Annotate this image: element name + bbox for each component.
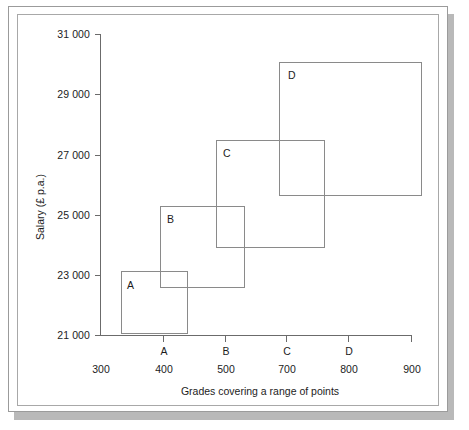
y-tick-label-21000: 21 000	[38, 329, 90, 341]
grade-box-label-d: D	[288, 69, 296, 81]
x-grade-label-c: C	[271, 345, 303, 357]
plot-area: 31 000 29 000 27 000 25 000 23 000 21 00…	[0, 0, 469, 430]
y-tick-31000	[95, 34, 101, 35]
y-tick-23000	[95, 275, 101, 276]
x-number-label-800: 800	[333, 363, 365, 375]
y-axis-line	[100, 34, 101, 336]
grade-box-label-a: A	[127, 279, 134, 291]
x-number-label-500: 500	[210, 363, 242, 375]
y-tick-label-31000: 31 000	[38, 28, 90, 40]
chart-screenshot: 31 000 29 000 27 000 25 000 23 000 21 00…	[0, 0, 469, 430]
x-axis-line	[100, 335, 412, 336]
y-tick-label-23000: 23 000	[38, 269, 90, 281]
y-tick-21000	[95, 335, 101, 336]
y-tick-29000	[95, 94, 101, 95]
y-axis-title: Salary (£ p.a.)	[34, 174, 46, 240]
x-number-label-300: 300	[85, 363, 117, 375]
x-grade-label-b: B	[210, 345, 242, 357]
grade-box-label-c: C	[223, 147, 231, 159]
y-tick-label-29000: 29 000	[38, 88, 90, 100]
x-tick-grade-d	[348, 336, 349, 342]
x-number-label-900: 900	[396, 363, 428, 375]
x-axis-title: Grades covering a range of points	[150, 385, 370, 397]
grade-box-label-b: B	[167, 213, 174, 225]
x-tick-grade-a	[163, 336, 164, 342]
y-tick-27000	[95, 155, 101, 156]
x-tick-grade-b	[225, 336, 226, 342]
grade-box-d[interactable]	[279, 62, 422, 196]
x-number-label-700: 700	[271, 363, 303, 375]
y-tick-label-27000: 27 000	[38, 149, 90, 161]
x-grade-label-d: D	[333, 345, 365, 357]
x-tick-grade-c	[286, 336, 287, 342]
x-number-label-400: 400	[148, 363, 180, 375]
x-tick-end	[411, 336, 412, 342]
y-tick-25000	[95, 215, 101, 216]
x-grade-label-a: A	[148, 345, 180, 357]
